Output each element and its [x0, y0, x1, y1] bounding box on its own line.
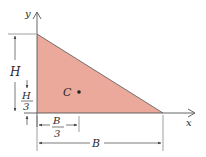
base-third-denominator: 3: [54, 128, 60, 139]
height-third-denominator: 3: [23, 101, 29, 112]
centroid-label: C: [63, 86, 72, 99]
height-label: H: [9, 65, 21, 79]
y-axis-label: y: [24, 8, 31, 19]
x-axis-label: x: [186, 117, 192, 128]
triangle-centroid-diagram: y x H H 3 C B 3 B: [0, 0, 206, 157]
base-label: B: [91, 137, 100, 150]
centroid-point: [77, 90, 81, 94]
base-third-numerator: B: [52, 115, 60, 126]
height-third-numerator: H: [21, 90, 31, 101]
